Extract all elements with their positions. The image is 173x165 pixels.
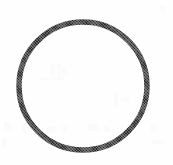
scanned-figure: Circle outline [0,0,173,165]
circle-illustration-svg [0,0,173,165]
circle-outline-shape [19,22,147,150]
